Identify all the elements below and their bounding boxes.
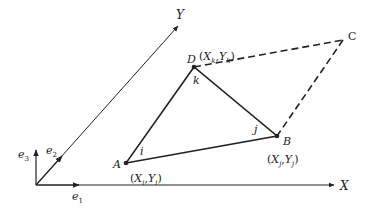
e2-label: e2 bbox=[46, 144, 57, 159]
triangle-ABD bbox=[126, 67, 277, 163]
local-i-label: i bbox=[140, 145, 144, 158]
point-A-label: A bbox=[112, 158, 121, 171]
y-axis-label: Y bbox=[176, 8, 185, 22]
e1-label: e1 bbox=[72, 190, 83, 205]
triangle-element-diagram: X Y e1 e2 e3 A i (Xi,Yi) B j (Xj,Yj) D k… bbox=[0, 0, 375, 213]
node-A bbox=[124, 161, 129, 166]
x-axis-label: X bbox=[339, 179, 349, 193]
edge-CB bbox=[277, 40, 343, 136]
e2-vector bbox=[36, 156, 62, 185]
point-B-coords: (Xj,Yj) bbox=[267, 153, 299, 168]
local-j-label: j bbox=[251, 123, 258, 136]
node-B bbox=[275, 134, 280, 139]
e3-label: e3 bbox=[18, 148, 29, 163]
point-B-label: B bbox=[282, 135, 291, 148]
local-k-label: k bbox=[193, 74, 200, 87]
point-D-label: D bbox=[186, 53, 196, 66]
point-D-coords: (Xk,Yk) bbox=[199, 50, 235, 65]
point-A-coords: (Xi,Yi) bbox=[130, 172, 162, 187]
point-C-label: C bbox=[348, 30, 356, 43]
